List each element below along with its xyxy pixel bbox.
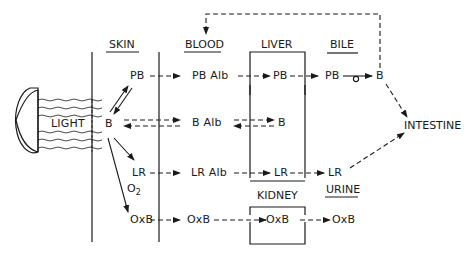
urine-oxb: OxB	[332, 214, 355, 226]
kidney-oxb: OxB	[266, 214, 289, 226]
light-label: LIGHT	[50, 118, 86, 130]
bile-lr: LR	[328, 167, 342, 179]
o2-label: O2	[127, 183, 141, 196]
skin-lr: LR	[132, 167, 146, 179]
blood-pb-alb: PB Alb	[192, 70, 228, 82]
header-skin: SKIN	[109, 39, 135, 51]
header-urine: URINE	[326, 184, 360, 196]
blood-lr-alb: LR Alb	[191, 167, 227, 179]
header-kidney: KIDNEY	[257, 190, 298, 202]
skin-oxb: OxB	[130, 214, 153, 226]
bile-pb: PB	[325, 70, 340, 82]
blood-b-alb: B Alb	[192, 117, 222, 129]
liver-b: B	[278, 117, 286, 129]
liver-lr: LR	[274, 167, 288, 179]
bile-b: B	[376, 70, 384, 82]
blood-oxb: OxB	[187, 214, 210, 226]
skin-b: B	[105, 118, 113, 130]
header-blood: BLOOD	[185, 39, 224, 51]
liver-pb: PB	[273, 70, 288, 82]
skin-pb: PB	[130, 70, 145, 82]
header-intestine: INTESTINE	[404, 120, 461, 132]
header-bile: BILE	[330, 39, 354, 51]
header-liver: LIVER	[261, 39, 293, 51]
